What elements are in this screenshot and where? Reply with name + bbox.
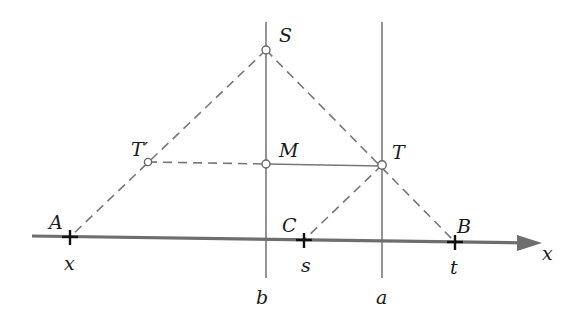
label-C: C <box>282 214 297 236</box>
segment-Tprime-M <box>148 162 266 164</box>
point-M-icon <box>262 160 270 168</box>
point-S-icon <box>262 46 270 54</box>
x-axis-arrowhead-icon <box>517 235 542 251</box>
coord-label-t: t <box>450 256 458 278</box>
line-label-a: a <box>376 286 387 308</box>
label-S: S <box>279 24 292 46</box>
label-T-prime: T′ <box>131 138 149 160</box>
coord-label-x: x <box>64 252 75 274</box>
geometry-diagram: S M T T′ A C B x s t x b a <box>0 0 580 324</box>
label-B: B <box>456 215 471 237</box>
axis-label-x: x <box>542 242 553 264</box>
segment-S-A <box>70 50 266 237</box>
segment-T-C <box>304 165 382 240</box>
label-M: M <box>278 139 299 161</box>
label-A: A <box>47 211 63 233</box>
line-label-b: b <box>256 286 268 308</box>
point-T-icon <box>378 161 386 169</box>
tick-C-icon <box>296 233 312 248</box>
label-T: T <box>392 141 406 163</box>
coord-label-s: s <box>301 254 311 276</box>
segment-M-T <box>266 164 382 166</box>
